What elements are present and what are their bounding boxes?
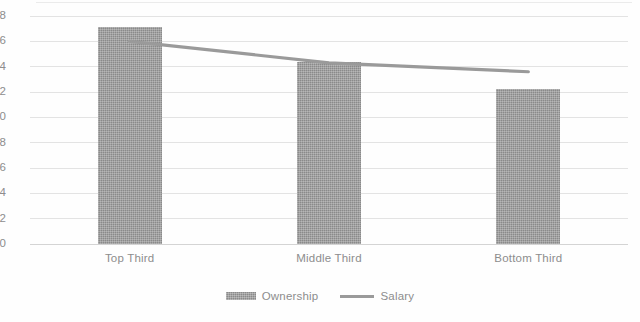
y-axis-tick-label: 18 bbox=[0, 10, 6, 22]
line-series-salary bbox=[30, 16, 628, 244]
y-axis-tick-label: 10 bbox=[0, 111, 6, 123]
y-axis-tick-label: 16 bbox=[0, 35, 6, 47]
x-axis-category-label: Middle Third bbox=[254, 252, 404, 264]
y-axis-tick-label: 14 bbox=[0, 61, 6, 73]
bar-swatch-icon bbox=[226, 292, 256, 300]
y-axis-tick-label: 12 bbox=[0, 86, 6, 98]
combo-bar-line-chart: 024681012141618 Top ThirdMiddle ThirdBot… bbox=[0, 0, 640, 322]
scan-artifact bbox=[36, 2, 632, 3]
legend-label-ownership: Ownership bbox=[262, 290, 319, 302]
legend-item-ownership: Ownership bbox=[226, 290, 319, 302]
plot-area bbox=[30, 16, 628, 244]
y-axis-tick-label: 2 bbox=[0, 213, 6, 225]
salary-line-path bbox=[130, 41, 529, 71]
y-axis-tick-label: 0 bbox=[0, 238, 6, 250]
line-swatch-icon bbox=[340, 295, 374, 298]
legend-label-salary: Salary bbox=[380, 290, 414, 302]
y-axis-tick-label: 6 bbox=[0, 162, 6, 174]
x-axis-category-label: Top Third bbox=[55, 252, 205, 264]
y-axis-tick-label: 8 bbox=[0, 137, 6, 149]
chart-legend: Ownership Salary bbox=[0, 290, 640, 302]
y-axis-tick-label: 4 bbox=[0, 187, 6, 199]
legend-item-salary: Salary bbox=[340, 290, 414, 302]
x-axis-category-label: Bottom Third bbox=[453, 252, 603, 264]
